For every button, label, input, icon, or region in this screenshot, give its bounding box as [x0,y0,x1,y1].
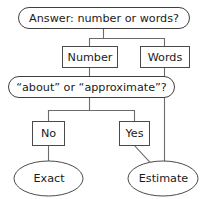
node-question-top-label: Answer: number or words? [29,12,179,25]
node-no-label: No [41,127,56,140]
node-no[interactable]: No [33,122,65,146]
node-question-about-label: “about” or “approximate”? [16,81,167,94]
node-estimate-label: Estimate [139,172,189,185]
node-yes-label: Yes [124,127,143,140]
node-estimate[interactable]: Estimate [128,161,198,196]
flowchart-svg: Answer: number or words? Number Words “a… [0,0,202,199]
node-words[interactable]: Words [141,47,190,68]
node-number-label: Number [68,51,113,64]
node-question-about[interactable]: “about” or “approximate”? [9,77,175,98]
node-exact[interactable]: Exact [14,161,83,196]
node-words-label: Words [148,51,183,64]
node-question-top[interactable]: Answer: number or words? [19,8,190,29]
node-exact-label: Exact [33,172,65,185]
edge-yes-to-estimate [135,146,152,165]
node-yes[interactable]: Yes [120,122,150,146]
flowchart-canvas: Answer: number or words? Number Words “a… [0,0,202,199]
node-number[interactable]: Number [63,47,118,68]
